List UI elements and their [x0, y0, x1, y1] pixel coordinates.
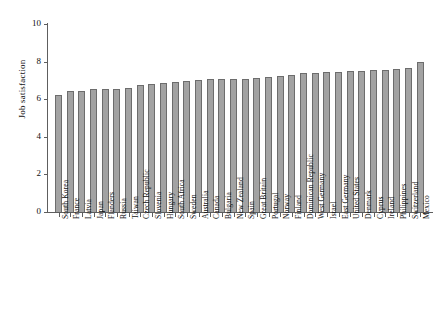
x-axis-tick-mark [199, 213, 200, 217]
x-axis-tick-mark [164, 213, 165, 217]
y-axis-tick-label: 8 [37, 55, 42, 67]
x-axis-tick-label: Slovenia [155, 192, 163, 219]
x-axis-tick-mark [129, 213, 130, 217]
x-axis-tick-mark [269, 213, 270, 217]
x-axis-tick-mark [374, 213, 375, 217]
x-axis-tick-label: Hungary [167, 192, 175, 219]
x-axis-tick-label: Bulgaria [225, 192, 233, 219]
x-axis-tick-mark [327, 213, 328, 217]
y-axis-tick: 6 [0, 99, 48, 100]
y-axis-tick-label: 10 [32, 17, 41, 29]
x-axis-tick-label: Israel [330, 202, 338, 219]
x-axis-tick-mark [187, 213, 188, 217]
y-axis-tick: 2 [0, 174, 48, 175]
y-axis-tick-label: 6 [37, 92, 42, 104]
x-axis-tick-mark [140, 213, 141, 217]
y-axis-tick-label: 4 [37, 130, 42, 142]
y-axis-tick-label: 0 [37, 205, 42, 217]
x-axis-tick-mark [385, 213, 386, 217]
x-axis-tick-label: Cyprus [377, 196, 385, 219]
x-axis-tick-mark [245, 213, 246, 217]
x-axis-tick-label: Japan [97, 201, 105, 219]
bar [78, 91, 85, 212]
x-axis-tick-label: Spain [248, 201, 256, 219]
x-axis-tick-label: Ireland [388, 197, 396, 219]
bar [382, 70, 389, 212]
x-axis-tick-mark [59, 213, 60, 217]
y-axis-tick: 0 [0, 212, 48, 213]
x-axis-tick-mark [315, 213, 316, 217]
x-axis-tick-label: Norway [283, 194, 291, 219]
x-axis-tick-label: South Africa [178, 179, 186, 219]
y-axis-tick-mark [44, 212, 48, 213]
x-axis-tick-mark [292, 213, 293, 217]
x-axis-tick-mark [152, 213, 153, 217]
x-axis-tick-label: Russia [120, 198, 128, 219]
x-axis-tick-mark [234, 213, 235, 217]
y-axis-tick: 8 [0, 62, 48, 63]
y-axis-tick-label: 2 [37, 167, 42, 179]
x-axis-tick-label: Flanders [108, 192, 116, 219]
x-axis-tick-mark [304, 213, 305, 217]
bar [288, 75, 295, 212]
x-axis-tick-mark [409, 213, 410, 217]
x-axis-tick-mark [175, 213, 176, 217]
x-axis-tick-label: Great Britain [260, 178, 268, 219]
x-axis-tick-label: Sweden [190, 194, 198, 219]
x-axis-tick-mark [397, 213, 398, 217]
x-axis-tick-label: New Zealand [237, 177, 245, 219]
x-axis-tick-label: South Korea [62, 180, 70, 219]
x-axis-tick-mark [222, 213, 223, 217]
x-axis-tick-mark [420, 213, 421, 217]
x-axis-tick-mark [94, 213, 95, 217]
x-axis-tick-label: Switzerland [412, 182, 420, 219]
x-axis-tick-mark [257, 213, 258, 217]
x-axis-tick-mark [362, 213, 363, 217]
x-axis-tick-label: Czech Republic [143, 169, 151, 219]
x-axis-tick-mark [339, 213, 340, 217]
bar [90, 89, 97, 212]
y-axis-label: Job satisfaction [17, 29, 27, 149]
x-axis-tick-mark [82, 213, 83, 217]
bar-chart: Job satisfaction 0246810 South KoreaFran… [0, 0, 433, 315]
x-axis-tick-label: Philippines [400, 184, 408, 219]
x-axis-tick-label: France [73, 198, 81, 219]
x-axis-tick-label: Canada [213, 196, 221, 219]
x-axis-tick-label: East Germany [342, 175, 350, 219]
x-axis-tick-mark [105, 213, 106, 217]
x-axis-tick-mark [117, 213, 118, 217]
x-axis-tick-label: Taiwan [132, 196, 140, 219]
x-axis-tick-label: Latvia [85, 199, 93, 219]
x-axis-tick-mark [70, 213, 71, 217]
x-axis-tick-label: Mexico [423, 195, 431, 219]
x-axis-tick-mark [210, 213, 211, 217]
bar [125, 88, 132, 212]
x-axis-tick-label: Finland [295, 195, 303, 219]
x-axis-tick-label: United States [353, 177, 361, 219]
x-axis-tick-label: West Germany [318, 173, 326, 219]
y-axis-tick: 10 [0, 24, 48, 25]
y-axis-tick: 4 [0, 137, 48, 138]
x-axis-tick-mark [350, 213, 351, 217]
x-axis-tick-label: Portugal [272, 192, 280, 219]
x-axis-tick-label: Australia [202, 190, 210, 219]
x-axis-tick-label: Denmark [365, 190, 373, 219]
x-axis-tick-mark [280, 213, 281, 217]
x-axis-tick-label: Dominican Republic [307, 154, 315, 219]
